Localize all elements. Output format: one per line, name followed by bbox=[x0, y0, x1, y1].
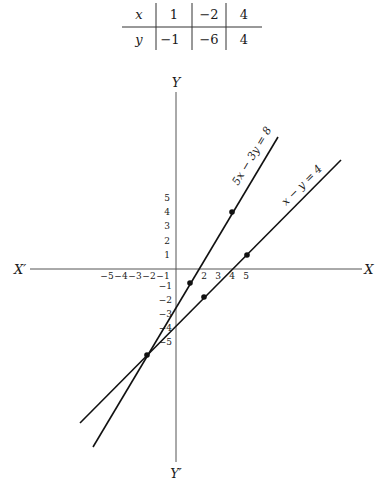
x-axis-label: X bbox=[363, 262, 374, 277]
table-cell: 4 bbox=[240, 7, 248, 22]
table-cell: −2 bbox=[199, 7, 218, 22]
x-tick: −3 bbox=[128, 271, 142, 281]
line1-label: 5x − 3y = 8 bbox=[229, 124, 274, 187]
x-tick: 3 bbox=[215, 271, 221, 281]
table-cell: −6 bbox=[199, 32, 218, 47]
x-tick: −4 bbox=[114, 271, 128, 281]
value-table: x 1 −2 4 y −1 −6 4 bbox=[122, 3, 262, 50]
x-neg-axis-label: X′ bbox=[13, 262, 26, 277]
x-tick: 2 bbox=[201, 271, 207, 281]
y-tick: −2 bbox=[159, 295, 172, 305]
y-tick: 2 bbox=[164, 236, 170, 246]
y-tick-labels: 1 2 3 4 5 −1 −2 −3 −4 −5 bbox=[159, 193, 173, 347]
point-1-neg1 bbox=[187, 280, 193, 286]
line-x-y-4 bbox=[80, 160, 341, 423]
table-header-y: y bbox=[134, 32, 143, 47]
y-tick: 4 bbox=[164, 207, 170, 217]
point-4-4 bbox=[229, 209, 235, 215]
table-cell: 4 bbox=[240, 32, 248, 47]
y-neg-axis-label: Y′ bbox=[170, 466, 182, 481]
point-5-1 bbox=[244, 252, 250, 258]
table-header-x: x bbox=[135, 7, 143, 22]
x-tick: −2 bbox=[142, 271, 155, 281]
x-tick: 5 bbox=[243, 271, 249, 281]
line-5x-3y-8 bbox=[93, 137, 278, 447]
table-cell: 1 bbox=[170, 7, 178, 22]
y-axis-label: Y bbox=[172, 75, 182, 90]
y-tick: 1 bbox=[164, 250, 170, 260]
x-tick: −1 bbox=[156, 271, 169, 281]
x-tick: −5 bbox=[100, 271, 114, 281]
y-tick: 5 bbox=[164, 193, 170, 203]
table-cell: −1 bbox=[160, 32, 179, 47]
graph-figure: x 1 −2 4 y −1 −6 4 X′ X Y Y′ −5 −4 −3 −2… bbox=[0, 0, 382, 496]
y-tick: −1 bbox=[159, 281, 172, 291]
point-neg2-neg6 bbox=[144, 352, 150, 358]
y-tick: 3 bbox=[164, 221, 170, 231]
line2-label: x − y = 4 bbox=[279, 162, 325, 208]
point-2-neg2 bbox=[201, 294, 207, 300]
